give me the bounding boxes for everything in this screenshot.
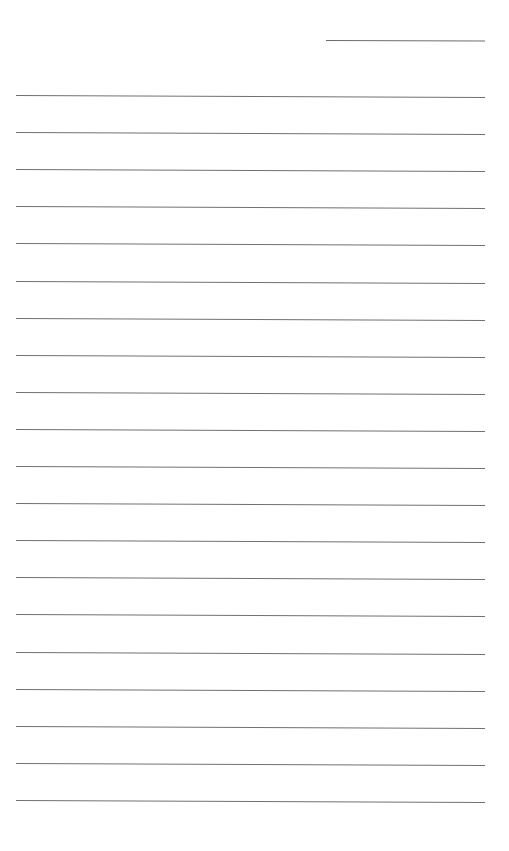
ruled-line — [16, 429, 485, 432]
ruled-line — [16, 763, 485, 766]
lined-paper-page — [0, 0, 509, 851]
ruled-line — [16, 540, 485, 543]
ruled-line — [16, 95, 485, 98]
ruled-line — [16, 614, 485, 617]
name-line — [326, 40, 485, 41]
ruled-line — [16, 169, 485, 172]
ruled-line — [16, 800, 485, 803]
ruled-line — [16, 577, 485, 580]
ruled-line — [16, 243, 485, 246]
ruled-line — [16, 689, 485, 692]
ruled-line — [16, 466, 485, 469]
ruled-line — [16, 355, 485, 358]
ruled-line — [16, 318, 485, 321]
ruled-line — [16, 281, 485, 284]
ruled-line — [16, 392, 485, 395]
ruled-line — [16, 726, 485, 729]
ruled-line — [16, 206, 485, 209]
ruled-line — [16, 652, 485, 655]
ruled-line — [16, 132, 485, 135]
ruled-line — [16, 503, 485, 506]
